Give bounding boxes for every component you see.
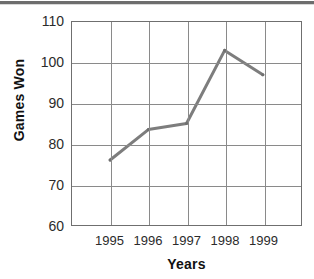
x-axis-tick-label: 1999 bbox=[240, 234, 288, 247]
gridline-horizontal bbox=[72, 63, 301, 64]
plot-area bbox=[71, 21, 302, 226]
series-line-games-won bbox=[72, 22, 301, 225]
gridline-vertical bbox=[226, 22, 227, 225]
y-axis-title: Games Won bbox=[11, 45, 27, 155]
y-axis-tick-label: 60 bbox=[22, 219, 64, 233]
y-axis-tick-label: 70 bbox=[22, 178, 64, 192]
y-axis-tick-label: 110 bbox=[22, 14, 64, 28]
gridline-vertical bbox=[265, 22, 266, 225]
x-axis-title: Years bbox=[71, 256, 302, 272]
gridline-horizontal bbox=[72, 104, 301, 105]
gridline-horizontal bbox=[72, 186, 301, 187]
gridline-horizontal bbox=[72, 145, 301, 146]
gridline-vertical bbox=[188, 22, 189, 225]
y-axis-tick-label: 80 bbox=[22, 137, 64, 151]
gridline-vertical bbox=[149, 22, 150, 225]
line-chart: 60708090100110 19951996199719981999 Game… bbox=[0, 0, 314, 279]
y-axis-tick-label: 100 bbox=[22, 55, 64, 69]
data-line bbox=[110, 50, 263, 160]
data-point bbox=[261, 73, 264, 76]
y-axis-tick-label: 90 bbox=[22, 96, 64, 110]
gridline-vertical bbox=[111, 22, 112, 225]
